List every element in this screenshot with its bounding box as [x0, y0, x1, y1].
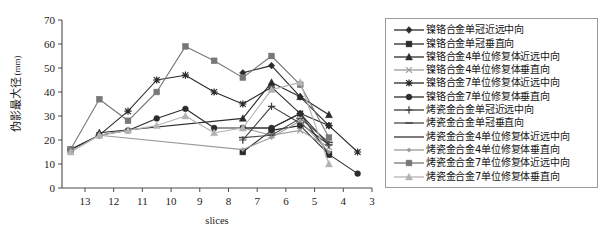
- y-tick-label: 60: [44, 38, 56, 50]
- legend-item-label: 烤瓷金合金4单位修复体近远中向: [426, 132, 569, 142]
- legend-item-0[interactable]: 镍铬合金单冠近远中向: [392, 24, 593, 37]
- legend-marker-triangle-icon: [392, 51, 426, 63]
- legend-marker-dash-icon: [392, 117, 426, 129]
- legend-item-label: 烤瓷金合金单冠近远中向: [426, 105, 534, 115]
- marker-circle: [183, 106, 189, 112]
- marker-asterisk: [211, 88, 218, 95]
- legend-item-8[interactable]: 烤瓷金合金4单位修复体近远中向: [392, 130, 593, 143]
- marker-asterisk: [153, 76, 160, 83]
- series-line: [243, 66, 329, 126]
- legend-item-label: 烤瓷金合金7单位修复体近远中向: [426, 158, 569, 168]
- marker-square: [326, 135, 332, 141]
- x-tick-label: 6: [283, 195, 289, 207]
- marker-square: [211, 58, 217, 64]
- marker-asterisk: [239, 100, 246, 107]
- marker-asterisk: [182, 72, 189, 79]
- y-axis-title: 伪影最大径(mm): [9, 56, 23, 132]
- marker-square: [406, 41, 412, 47]
- legend-marker-square-icon: [392, 38, 426, 50]
- legend-marker-line-icon: [392, 131, 426, 143]
- legend-marker-diamond-icon: [392, 24, 426, 36]
- marker-asterisk: [405, 80, 412, 87]
- y-axis-title-text: 伪影最大径: [9, 77, 23, 132]
- marker-square: [154, 89, 160, 95]
- legend-item-label: 镍铬合金单冠垂直向: [426, 39, 514, 49]
- legend-item-11[interactable]: 烤瓷金合金7单位修复体垂直向: [392, 170, 593, 183]
- legend-item-label: 烤瓷金合金4单位修复体垂直向: [426, 145, 560, 155]
- y-tick-label: 70: [44, 14, 56, 26]
- marker-diamond: [406, 27, 412, 34]
- legend-marker-circle-icon: [392, 91, 426, 103]
- legend-marker-small-diamond-icon: [392, 144, 426, 156]
- legend-item-label: 烤瓷金合金单冠垂直向: [426, 118, 524, 128]
- x-tick-label: 11: [137, 195, 148, 207]
- y-tick-label: 30: [44, 110, 56, 122]
- marker-triangle: [325, 111, 332, 118]
- legend-marker-cross-x-icon: [392, 64, 426, 76]
- legend-item-label: 镍铬合金7单位修复体近远中向: [426, 78, 560, 88]
- x-axis-title: slices: [205, 215, 228, 226]
- legend-item-5[interactable]: 镍铬合金7单位修复体垂直向: [392, 90, 593, 103]
- marker-circle: [355, 171, 361, 177]
- legend-item-9[interactable]: 烤瓷金合金4单位修复体垂直向: [392, 144, 593, 157]
- x-tick-label: 10: [166, 195, 178, 207]
- legend-item-10[interactable]: 烤瓷金合金7单位修复体近远中向: [392, 157, 593, 170]
- series-line: [71, 109, 358, 174]
- x-tick-label: 7: [254, 195, 260, 207]
- marker-square: [96, 96, 102, 102]
- marker-plus: [405, 106, 412, 113]
- legend-list: 镍铬合金单冠近远中向镍铬合金单冠垂直向镍铬合金4单位修复体近远中向镍铬合金4单位…: [392, 24, 593, 183]
- y-tick-label: 50: [44, 62, 56, 74]
- x-tick-label: 5: [312, 195, 318, 207]
- marker-asterisk: [325, 122, 332, 129]
- chart-legend: 镍铬合金单冠近远中向镍铬合金单冠垂直向镍铬合金4单位修复体近远中向镍铬合金4单位…: [385, 18, 598, 188]
- chart-container: 010203040506070131211109876543slices伪影最大…: [0, 0, 605, 240]
- x-tick-label: 4: [341, 195, 347, 207]
- marker-square: [125, 118, 131, 124]
- legend-item-label: 镍铬合金单冠近远中向: [426, 25, 524, 35]
- marker-asterisk: [354, 148, 361, 155]
- series-line: [71, 121, 329, 152]
- marker-square: [269, 53, 275, 59]
- legend-item-label: 镍铬合金7单位修复体垂直向: [426, 92, 550, 102]
- marker-circle: [154, 116, 160, 122]
- x-tick-label: 8: [226, 195, 232, 207]
- x-tick-label: 12: [108, 195, 119, 207]
- legend-item-label: 镍铬合金4单位修复体垂直向: [426, 65, 550, 75]
- legend-item-1[interactable]: 镍铬合金单冠垂直向: [392, 37, 593, 50]
- marker-triangle: [182, 112, 189, 119]
- y-tick-label: 0: [50, 182, 56, 194]
- y-tick-label: 40: [44, 86, 56, 98]
- marker-square: [406, 160, 412, 166]
- legend-marker-asterisk-icon: [392, 77, 426, 89]
- y-tick-label: 20: [44, 134, 56, 146]
- legend-item-2[interactable]: 镍铬合金4单位修复体近远中向: [392, 51, 593, 64]
- marker-square: [240, 75, 246, 81]
- legend-item-label: 镍铬合金4单位修复体近远中向: [426, 52, 560, 62]
- marker-triangle: [325, 160, 332, 167]
- legend-item-6[interactable]: 烤瓷金合金单冠近远中向: [392, 104, 593, 117]
- legend-item-3[interactable]: 镍铬合金4单位修复体垂直向: [392, 64, 593, 77]
- series-5: [68, 106, 361, 177]
- x-tick-label: 3: [369, 195, 375, 207]
- legend-item-7[interactable]: 烤瓷金合金单冠垂直向: [392, 117, 593, 130]
- marker-circle: [406, 94, 412, 100]
- y-tick-label: 10: [44, 158, 56, 170]
- x-tick-label: 9: [197, 195, 203, 207]
- legend-marker-plus-icon: [392, 104, 426, 116]
- series-line: [71, 46, 329, 149]
- legend-marker-square-icon: [392, 157, 426, 169]
- marker-asterisk: [124, 108, 131, 115]
- x-tick-label: 13: [79, 195, 91, 207]
- y-axis-unit-text: (mm): [12, 56, 22, 76]
- marker-small-diamond: [407, 148, 411, 152]
- legend-item-4[interactable]: 镍铬合金7单位修复体近远中向: [392, 77, 593, 90]
- legend-marker-triangle-icon: [392, 171, 426, 183]
- legend-item-label: 烤瓷金合金7单位修复体垂直向: [426, 172, 560, 182]
- marker-square: [183, 44, 189, 50]
